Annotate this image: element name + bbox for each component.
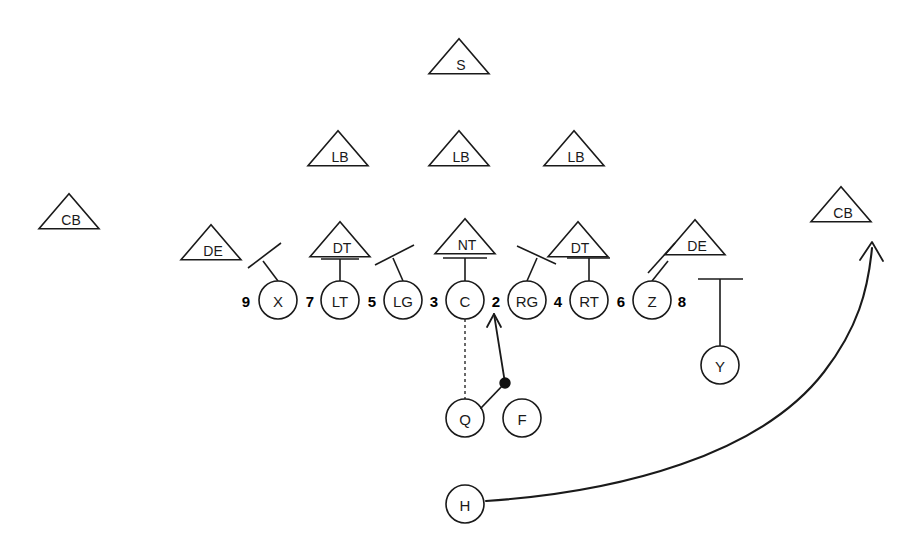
offense-player-z-6: Z: [633, 281, 671, 319]
defender-label: DE: [687, 238, 706, 254]
play-diagram-canvas: SLBLBLBCBCBDEDTNTDTDE XLTLGCRGRTZYQFH 97…: [0, 0, 924, 550]
player-label: LG: [393, 293, 413, 310]
handoff-point: [500, 378, 510, 388]
defender-label: CB: [61, 212, 80, 228]
offense-player-y-7: Y: [701, 346, 739, 384]
defender-label: LB: [452, 149, 469, 165]
offense-player-x-0: X: [259, 281, 297, 319]
offense-player-lg-2: LG: [384, 281, 422, 319]
gap-number-5: 5: [368, 293, 376, 310]
defender-label: LB: [331, 149, 348, 165]
offense-player-rt-5: RT: [570, 281, 608, 319]
player-label: F: [517, 411, 526, 428]
player-label: RT: [579, 293, 599, 310]
defender-label: DE: [203, 243, 222, 259]
defender-label: DT: [571, 240, 590, 256]
offense-player-q-8: Q: [446, 399, 484, 437]
gap-number-7: 7: [306, 293, 314, 310]
gap-number-8: 8: [678, 293, 686, 310]
gap-number-4: 4: [554, 293, 563, 310]
defender-label: CB: [833, 205, 852, 221]
diagram-background: [0, 0, 924, 550]
player-label: Q: [459, 411, 471, 428]
gap-number-2: 2: [492, 293, 500, 310]
offense-player-h-10: H: [446, 485, 484, 523]
player-label: RG: [516, 293, 539, 310]
gap-number-6: 6: [617, 293, 625, 310]
player-label: Y: [715, 358, 725, 375]
player-label: C: [460, 293, 471, 310]
offense-player-c-3: C: [446, 281, 484, 319]
offense-player-lt-1: LT: [321, 281, 359, 319]
gap-number-9: 9: [242, 293, 250, 310]
gap-number-3: 3: [430, 293, 438, 310]
offense-player-f-9: F: [503, 399, 541, 437]
defender-label: DT: [333, 240, 352, 256]
defender-label: LB: [567, 149, 584, 165]
player-label: X: [273, 293, 283, 310]
offense-player-rg-4: RG: [508, 281, 546, 319]
player-label: LT: [332, 293, 348, 310]
defender-label: S: [456, 57, 465, 73]
defender-label: NT: [458, 237, 477, 253]
player-label: H: [460, 497, 471, 514]
player-label: Z: [647, 293, 656, 310]
football-play-diagram: SLBLBLBCBCBDEDTNTDTDE XLTLGCRGRTZYQFH 97…: [0, 0, 924, 550]
